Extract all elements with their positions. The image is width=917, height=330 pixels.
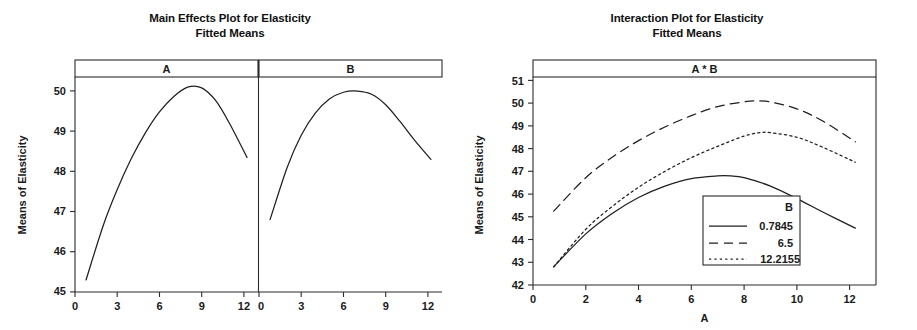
x-tick-label: 4: [635, 293, 642, 305]
x-tick-label: 6: [688, 293, 694, 305]
y-tick-label: 48: [512, 143, 524, 155]
interaction-legend[interactable]: B 0.7845 6.5 12.2155: [703, 196, 800, 265]
x-tick-label: 9: [199, 300, 205, 312]
y-tick-label: 47: [512, 165, 524, 177]
interaction-y-ticks: 51 50 49 48 47 46 45 44 43 42: [512, 75, 533, 292]
main-effects-y-ticks: 50 49 48 47 46 45: [54, 85, 75, 297]
main-effect-curve-a: [86, 86, 247, 280]
y-tick-label: 46: [512, 188, 524, 200]
legend-label-0: 0.7845: [759, 220, 793, 232]
y-tick-label: 44: [512, 234, 525, 246]
interaction-svg: Means of Elasticity A * B 51: [457, 0, 917, 330]
x-tick-label: 3: [298, 300, 304, 312]
x-tick-label: 0: [530, 293, 536, 305]
interaction-y-axis-label: Means of Elasticity: [473, 135, 485, 235]
x-tick-label: 12: [843, 293, 855, 305]
y-tick-label: 50: [54, 85, 66, 97]
x-tick-label: 6: [156, 300, 162, 312]
y-tick-label: 50: [512, 97, 524, 109]
main-effect-curve-b: [270, 91, 431, 220]
x-tick-label: 12: [238, 300, 250, 312]
y-tick-label: 48: [54, 165, 66, 177]
x-tick-label: 9: [383, 300, 389, 312]
x-tick-label: 8: [741, 293, 747, 305]
x-tick-label: 2: [583, 293, 589, 305]
x-tick-label: 0: [258, 300, 264, 312]
interaction-x-ticks: 0 2 4 6 8 10 12: [530, 285, 856, 305]
y-tick-label: 43: [512, 256, 524, 268]
y-tick-label: 42: [512, 279, 524, 291]
legend-label-1: 6.5: [778, 237, 793, 249]
x-tick-label: 6: [340, 300, 346, 312]
y-tick-label: 45: [512, 211, 524, 223]
main-effects-x-ticks-b: 0 3 6 9 12: [258, 292, 434, 312]
x-tick-label: 10: [791, 293, 803, 305]
figure-canvas: Main Effects Plot for Elasticity Fitted …: [0, 0, 917, 330]
x-tick-label: 3: [114, 300, 120, 312]
panel-header-label-a: A: [163, 63, 171, 75]
main-effects-y-axis-label: Means of Elasticity: [16, 135, 28, 235]
interaction-curve-6-5: [554, 101, 856, 211]
x-tick-label: 0: [72, 300, 78, 312]
interaction-x-axis-label: A: [701, 312, 709, 324]
interaction-plot: Interaction Plot for Elasticity Fitted M…: [457, 0, 917, 330]
y-tick-label: 49: [54, 125, 66, 137]
legend-label-2: 12.2155: [760, 253, 800, 265]
y-tick-label: 49: [512, 120, 524, 132]
panel-header-label-ab: A * B: [692, 63, 718, 75]
panel-header-label-b: B: [347, 63, 355, 75]
y-tick-label: 47: [54, 205, 66, 217]
main-effects-svg: Means of Elasticity A B 50 49 48 47: [0, 0, 460, 330]
legend-title: B: [785, 201, 793, 213]
main-effects-plot: Main Effects Plot for Elasticity Fitted …: [0, 0, 460, 330]
y-tick-label: 51: [512, 75, 524, 87]
y-tick-label: 46: [54, 245, 66, 257]
y-tick-label: 45: [54, 285, 66, 297]
x-tick-label: 12: [422, 300, 434, 312]
main-effects-x-ticks-a: 0 3 6 9 12: [72, 292, 250, 312]
